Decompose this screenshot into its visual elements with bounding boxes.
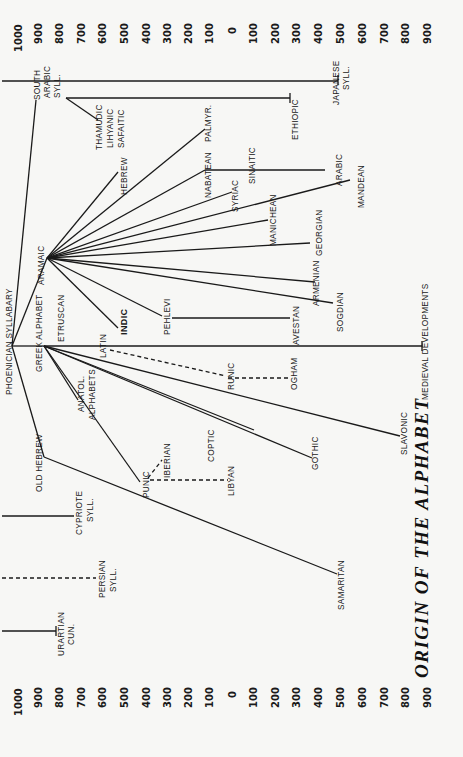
label-gothic: GOTHIC: [311, 436, 320, 470]
label-line: CUN.: [67, 624, 76, 645]
year-label: 300: [291, 23, 302, 44]
year-label: 500: [335, 23, 346, 44]
year-label: 900: [422, 687, 433, 708]
label-punic: PUNIC: [142, 471, 151, 498]
year-label: 300: [291, 687, 302, 708]
label-urartian: URARTIAN CUN.: [57, 612, 76, 656]
label-sinaitic: SINAITIC: [248, 147, 257, 184]
year-label: 1000: [13, 688, 24, 716]
label-mandean: MANDEAN: [357, 165, 366, 208]
label-avestan: AVESTAN: [292, 306, 301, 345]
year-label: 500: [119, 687, 130, 708]
year-label: 200: [270, 687, 281, 708]
label-phoenician: PHOENICIAN SYLLABARY: [5, 288, 14, 395]
year-label: 300: [162, 23, 173, 44]
label-greek: GREEK ALPHABET: [35, 295, 44, 372]
label-runic: RUNIC: [227, 363, 236, 390]
year-label: 500: [119, 23, 130, 44]
alphabet-origin-diagram: 1000 900 800 700 600 500 400 300 200 100…: [0, 0, 463, 757]
label-line: SAFAITIC: [117, 109, 126, 148]
year-label: 900: [33, 23, 44, 44]
diagram-title: ORIGIN OF THE ALPHABET: [411, 397, 432, 678]
year-label: 800: [400, 23, 411, 44]
label-thamudic: THAMUDIC LIHYANIC SAFAITIC: [95, 104, 126, 150]
label-georgian: GEORGIAN: [315, 209, 324, 256]
label-ogham: OGHAM: [290, 358, 299, 390]
year-label: 600: [97, 687, 108, 708]
label-libyan: LIBYAN: [227, 466, 236, 496]
label-aramaic: ARAMAIC: [37, 246, 46, 285]
year-label: 0: [227, 691, 238, 698]
label-manichean: MANICHEAN: [269, 194, 278, 246]
year-label: 300: [162, 687, 173, 708]
label-line: THAMUDIC: [95, 104, 104, 150]
year-label: 200: [183, 23, 194, 44]
label-samaritan: SAMARITAN: [337, 560, 346, 610]
label-coptic: COPTIC: [207, 429, 216, 462]
label-arabic: ARABIC: [335, 154, 344, 186]
script-labels: PHOENICIAN SYLLABARY SOUTH ARABIC SYLL. …: [5, 60, 430, 656]
year-label: 200: [183, 687, 194, 708]
bottom-year-axis: 1000 900 800 700 600 500 400 300 200 100…: [13, 687, 433, 716]
label-line: CYPRIOTE: [75, 491, 84, 535]
year-label: 400: [313, 687, 324, 708]
year-label: 600: [357, 23, 368, 44]
year-label: 600: [97, 23, 108, 44]
label-line: SOUTH: [33, 70, 42, 100]
label-japanese: JAPANESE SYLL.: [332, 60, 351, 105]
year-label: 900: [33, 687, 44, 708]
label-medieval: MEDIEVAL DEVELOPMENTS: [421, 283, 430, 400]
label-ethiopic: ETHIOPIC: [291, 99, 300, 140]
label-south-arabic: SOUTH ARABIC SYLL.: [33, 66, 62, 100]
year-label: 400: [141, 23, 152, 44]
label-etruscan: ETRUSCAN: [57, 295, 66, 342]
label-line: JAPANESE: [332, 60, 341, 105]
year-label: 500: [335, 687, 346, 708]
label-anatol: ANATOL. ALPHABETS: [77, 369, 97, 420]
year-label: 800: [54, 23, 65, 44]
year-label: 100: [204, 23, 215, 44]
label-iberian: IBERIAN: [163, 443, 172, 478]
label-syriac: SYRIAC: [231, 180, 240, 212]
year-label: 400: [141, 687, 152, 708]
label-line: URARTIAN: [57, 612, 66, 656]
label-line: SYLL.: [86, 498, 95, 522]
label-latin: LATIN: [99, 334, 108, 358]
year-label: 100: [248, 23, 259, 44]
label-line: ALPHABETS: [88, 369, 97, 420]
label-line: ARABIC: [43, 66, 52, 98]
top-year-axis: 1000 900 800 700 600 500 400 300 200 100…: [13, 23, 433, 52]
label-pehlevi: PEHLEVI: [163, 298, 172, 335]
label-sogdian: SOGDIAN: [336, 292, 345, 332]
label-armenian: ARMENIAN: [312, 260, 321, 306]
label-line: ANATOL.: [77, 376, 86, 412]
year-label: 700: [76, 687, 87, 708]
label-palmyr: PALMYR.: [204, 105, 213, 142]
year-label: 100: [204, 687, 215, 708]
year-label: 800: [54, 687, 65, 708]
label-slavonic: SLAVONIC: [400, 412, 409, 455]
year-label: 700: [379, 23, 390, 44]
label-line: SYLL.: [53, 74, 62, 98]
year-label: 900: [422, 23, 433, 44]
year-label: 400: [313, 23, 324, 44]
year-label: 700: [379, 687, 390, 708]
year-label: 700: [76, 23, 87, 44]
label-cypriote: CYPRIOTE SYLL.: [75, 491, 95, 535]
year-label: 0: [227, 27, 238, 34]
year-label: 200: [270, 23, 281, 44]
label-line: PERSIAN: [98, 560, 107, 598]
label-nabatean: NABATEAN: [204, 152, 213, 198]
label-line: LIHYANIC: [106, 108, 115, 148]
year-label: 1000: [13, 24, 24, 52]
year-label: 600: [357, 687, 368, 708]
year-label: 800: [400, 687, 411, 708]
label-indic: INDIC: [119, 308, 129, 335]
label-line: SYLL.: [342, 66, 351, 90]
label-persian: PERSIAN SYLL.: [98, 560, 118, 598]
label-hebrew: HEBREW: [120, 157, 129, 195]
year-label: 100: [248, 687, 259, 708]
label-old-hebrew: OLD HEBREW: [35, 434, 44, 492]
label-line: SYLL.: [109, 568, 118, 592]
